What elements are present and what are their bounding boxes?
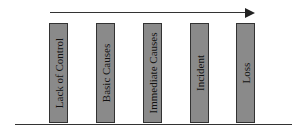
domino-loss: Loss: [236, 23, 255, 123]
domino-label: Incident: [194, 55, 206, 91]
domino-immediate-causes: Immediate Causes: [143, 23, 162, 123]
arrow-head-icon: [245, 8, 255, 18]
domino-lack-of-control: Lack of Control: [49, 23, 68, 123]
domino-label: Basic Causes: [100, 44, 112, 102]
baseline: [15, 124, 292, 125]
domino-basic-causes: Basic Causes: [96, 23, 115, 123]
domino-label: Immediate Causes: [147, 33, 159, 114]
arrow-line: [50, 12, 246, 13]
domino-label: Lack of Control: [53, 38, 65, 108]
domino-label: Loss: [240, 63, 252, 84]
domino-incident: Incident: [190, 23, 209, 123]
